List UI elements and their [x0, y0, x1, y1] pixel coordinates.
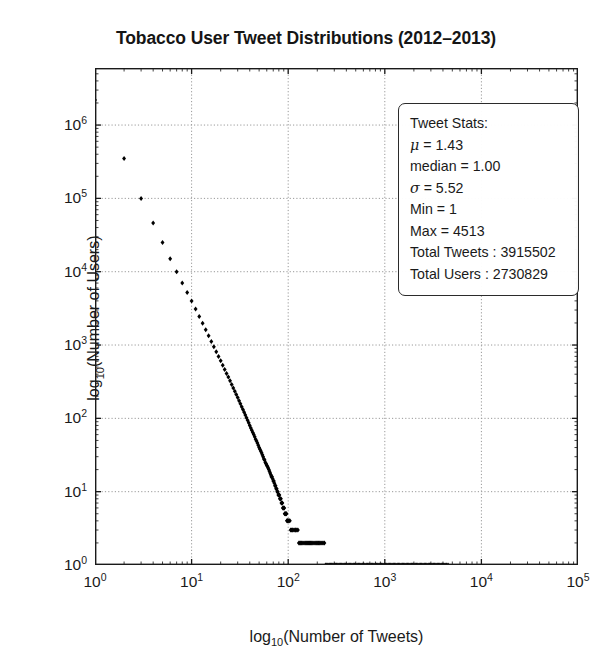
stats-line: Total Tweets : 3915502	[410, 242, 578, 264]
plot-area: log10(Number of Users) log10(Number of T…	[95, 68, 578, 565]
figure-canvas: Tobacco User Tweet Distributions (2012–2…	[0, 0, 612, 667]
stats-line: median = 1.00	[410, 156, 578, 178]
stats-line: σ = 5.52	[410, 178, 578, 200]
x-axis-label: log10(Number of Tweets)	[95, 628, 578, 648]
stats-line: Max = 4513	[410, 221, 578, 243]
x-tick-label: 104	[470, 573, 493, 591]
x-tick-label: 100	[83, 573, 106, 591]
y-tick-label: 105	[64, 189, 87, 207]
x-tick-label: 101	[180, 573, 203, 591]
y-tick-label: 101	[64, 483, 87, 501]
y-tick-label: 106	[64, 116, 87, 134]
stats-box: Tweet Stats: μ = 1.43median = 1.00σ = 5.…	[398, 103, 579, 296]
stats-header: Tweet Stats:	[410, 113, 578, 135]
stats-line: μ = 1.43	[410, 135, 578, 157]
y-tick-label: 102	[64, 409, 87, 427]
x-tick-label: 103	[373, 573, 396, 591]
x-tick-label: 102	[277, 573, 300, 591]
stats-lines: μ = 1.43median = 1.00σ = 5.52Min = 1Max …	[410, 135, 578, 286]
stats-line: Total Users : 2730829	[410, 264, 578, 286]
y-tick-label: 103	[64, 336, 87, 354]
y-tick-label: 100	[64, 556, 87, 574]
y-axis-label: log10(Number of Users)	[85, 70, 105, 567]
x-tick-label: 105	[566, 573, 589, 591]
y-tick-label: 104	[64, 263, 87, 281]
stats-line: Min = 1	[410, 199, 578, 221]
chart-title: Tobacco User Tweet Distributions (2012–2…	[0, 28, 612, 49]
